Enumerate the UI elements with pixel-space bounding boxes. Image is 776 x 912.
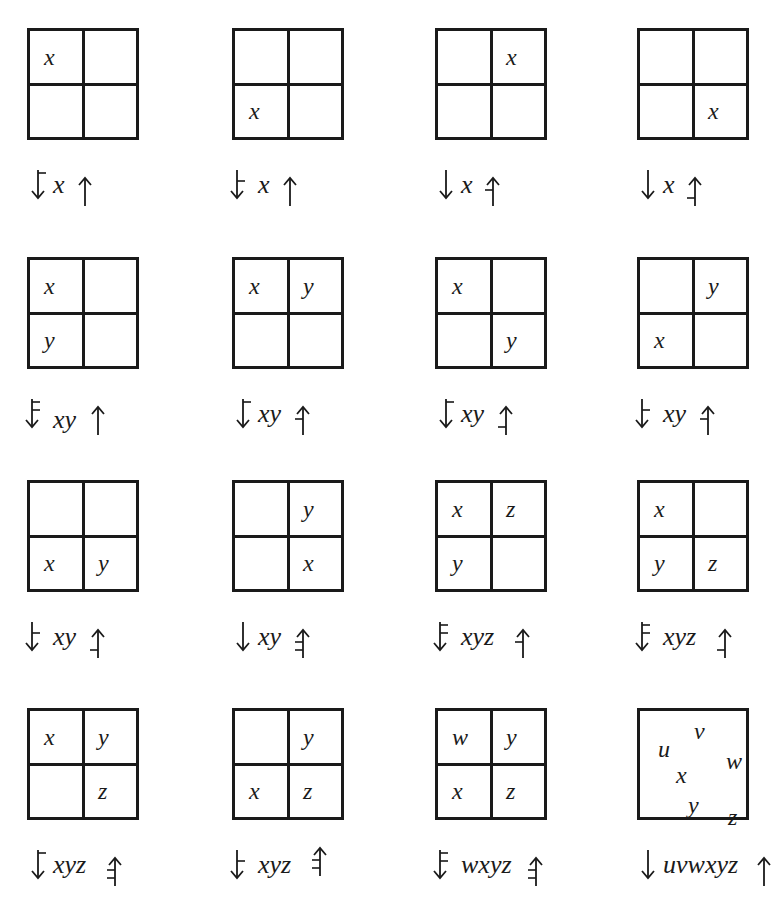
variable-y: y bbox=[98, 551, 109, 575]
panel-label: xy bbox=[232, 393, 432, 443]
variable-x: x bbox=[452, 497, 463, 521]
variable-x: x bbox=[44, 725, 55, 749]
variable-x: x bbox=[249, 274, 260, 298]
single-box: uvwxyz bbox=[637, 708, 749, 820]
two-by-two-grid: wyxz bbox=[435, 708, 547, 820]
variable-sequence: x bbox=[461, 172, 473, 198]
variable-y: y bbox=[506, 725, 517, 749]
panel-label: wxyz bbox=[435, 844, 635, 894]
variable-y: y bbox=[506, 328, 517, 352]
two-by-two-grid: yxz bbox=[232, 708, 344, 820]
up-arrow-icon bbox=[484, 176, 502, 206]
variable-y: y bbox=[452, 551, 463, 575]
variable-sequence: xyz bbox=[258, 852, 291, 878]
panel-13: xyz xyz bbox=[27, 708, 217, 912]
down-arrow-icon bbox=[431, 850, 449, 880]
horizontal-divider bbox=[640, 535, 746, 538]
down-arrow-icon bbox=[23, 622, 41, 652]
panel-3: x x bbox=[435, 28, 625, 256]
variable-sequence: wxyz bbox=[461, 852, 512, 878]
variable-y: y bbox=[303, 274, 314, 298]
variable-y: y bbox=[98, 725, 109, 749]
down-arrow-icon bbox=[228, 850, 246, 880]
panel-label: uvwxyz bbox=[637, 844, 776, 894]
two-by-two-grid: x bbox=[435, 28, 547, 140]
up-arrow-icon bbox=[497, 405, 515, 435]
panel-1: x x bbox=[27, 28, 217, 256]
variable-x: x bbox=[452, 274, 463, 298]
variable-x: x bbox=[452, 779, 463, 803]
up-arrow-icon bbox=[755, 856, 773, 886]
two-by-two-grid: xyz bbox=[27, 708, 139, 820]
variable-z: z bbox=[708, 551, 717, 575]
variable-y: y bbox=[303, 497, 314, 521]
panel-4: x x bbox=[637, 28, 776, 256]
up-arrow-icon bbox=[89, 628, 107, 658]
variable-x: x bbox=[303, 551, 314, 575]
variable-u: u bbox=[658, 737, 670, 761]
up-arrow-icon bbox=[527, 856, 545, 886]
panel-label: xy bbox=[435, 393, 635, 443]
panel-label: xyz bbox=[232, 844, 432, 894]
variable-x: x bbox=[506, 45, 517, 69]
variable-sequence: xy bbox=[663, 401, 686, 427]
panel-14: yxz xyz bbox=[232, 708, 422, 912]
up-arrow-icon bbox=[686, 176, 704, 206]
variable-x: x bbox=[654, 328, 665, 352]
variable-sequence: x bbox=[53, 172, 65, 198]
two-by-two-grid: yx bbox=[637, 257, 749, 369]
down-arrow-icon bbox=[23, 399, 41, 429]
down-arrow-icon bbox=[431, 622, 449, 652]
two-by-two-grid: xy bbox=[27, 257, 139, 369]
panel-label: xy bbox=[27, 616, 227, 666]
variable-sequence: x bbox=[258, 172, 270, 198]
up-arrow-icon bbox=[76, 176, 94, 206]
variable-sequence: uvwxyz bbox=[663, 852, 738, 878]
two-by-two-grid: xy bbox=[435, 257, 547, 369]
horizontal-divider bbox=[438, 535, 544, 538]
variable-sequence: xy bbox=[461, 401, 484, 427]
panel-11: xzy xyz bbox=[435, 480, 625, 708]
two-by-two-grid: x bbox=[27, 28, 139, 140]
panel-6: xy xy bbox=[232, 257, 422, 485]
down-arrow-icon bbox=[639, 170, 657, 200]
panel-label: xyz bbox=[637, 616, 776, 666]
horizontal-divider bbox=[438, 83, 544, 86]
panel-15: wyxz wxyz bbox=[435, 708, 625, 912]
panel-9: xy xy bbox=[27, 480, 217, 708]
variable-x: x bbox=[249, 99, 260, 123]
panel-8: yx xy bbox=[637, 257, 776, 485]
down-arrow-icon bbox=[437, 170, 455, 200]
down-arrow-icon bbox=[639, 850, 657, 880]
variable-x: x bbox=[249, 779, 260, 803]
variable-x: x bbox=[676, 763, 687, 787]
panel-12: xyz xyz bbox=[637, 480, 776, 708]
variable-y: y bbox=[688, 793, 699, 817]
two-by-two-grid: xy bbox=[232, 257, 344, 369]
panel-16: uvwxyz uvwxyz bbox=[637, 708, 776, 912]
down-arrow-icon bbox=[228, 170, 246, 200]
variable-v: v bbox=[694, 719, 705, 743]
variable-z: z bbox=[506, 779, 515, 803]
variable-z: z bbox=[98, 779, 107, 803]
horizontal-divider bbox=[30, 312, 136, 315]
variable-sequence: x bbox=[663, 172, 675, 198]
variable-sequence: xy bbox=[258, 624, 281, 650]
down-arrow-icon bbox=[633, 399, 651, 429]
variable-sequence: xyz bbox=[461, 624, 494, 650]
up-arrow-icon bbox=[294, 628, 312, 658]
up-arrow-icon bbox=[294, 405, 312, 435]
up-arrow-icon bbox=[716, 628, 734, 658]
variable-x: x bbox=[44, 551, 55, 575]
horizontal-divider bbox=[438, 312, 544, 315]
variable-z: z bbox=[303, 779, 312, 803]
up-arrow-icon bbox=[106, 856, 124, 886]
panel-2: x x bbox=[232, 28, 422, 256]
panel-label: xy bbox=[27, 393, 227, 443]
two-by-two-grid: x bbox=[232, 28, 344, 140]
two-by-two-grid: xy bbox=[27, 480, 139, 592]
variable-w: w bbox=[726, 749, 742, 773]
up-arrow-icon bbox=[699, 405, 717, 435]
variable-sequence: xyz bbox=[663, 624, 696, 650]
panel-label: x bbox=[232, 164, 432, 214]
